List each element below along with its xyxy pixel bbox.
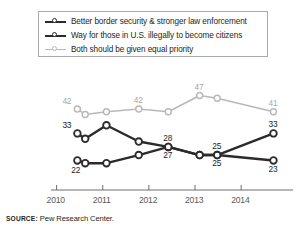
data-point-label: 25 [212,142,221,151]
data-point-marker[interactable] [135,138,142,145]
legend-item-label: Better border security & stronger law en… [71,17,247,26]
data-point-label: 47 [195,83,204,92]
x-axis-line [0,182,299,196]
data-point-marker[interactable] [135,152,142,159]
legend-open-circle-icon [52,18,57,23]
x-axis-tick-label: 2012 [139,196,157,205]
data-point-marker[interactable] [82,111,88,117]
data-point-label: 33 [62,121,71,130]
legend-open-circle-icon [52,32,57,37]
legend-open-circle-icon [52,46,57,51]
data-point-marker[interactable] [197,93,203,99]
x-axis-tick-label: 2011 [93,196,111,205]
data-point-marker[interactable] [270,109,276,115]
data-point-label: 41 [269,99,278,108]
series-line [77,125,273,155]
legend-marker-icon [45,30,66,41]
x-axis-tick-label: 2013 [185,196,203,205]
legend-item-label: Way for those in U.S. illegally to becom… [71,31,242,40]
data-point-marker[interactable] [103,160,110,167]
data-point-label: 33 [269,120,278,129]
data-point-label: 27 [163,151,172,160]
data-point-marker[interactable] [270,157,277,164]
data-point-marker[interactable] [196,152,203,159]
data-point-marker[interactable] [214,95,220,101]
data-point-marker[interactable] [82,160,89,167]
data-point-label: 42 [134,96,143,105]
source-keyword: SOURCE: [6,215,38,222]
data-point-marker[interactable] [103,122,110,129]
line-chart-svg [0,58,299,186]
x-axis: 20102011201220132014 [0,182,299,208]
chart-screenshot: Better border security & stronger law en… [0,0,299,232]
data-point-marker[interactable] [270,130,277,137]
x-axis-tick-label: 2014 [231,196,249,205]
source-text: Pew Research Center. [40,214,114,223]
data-point-label: 42 [62,97,71,106]
data-point-marker[interactable] [165,109,171,115]
legend-item-label: Both should be given equal priority [71,45,193,54]
data-point-marker[interactable] [74,130,81,137]
data-point-label: 22 [71,166,80,175]
legend-item-equal-priority[interactable]: Both should be given equal priority [45,43,267,56]
chart-plot-area: 332825332227252342424741 [0,58,299,186]
legend-marker-icon [45,44,66,55]
data-point-marker[interactable] [136,106,142,112]
data-point-marker[interactable] [74,157,81,164]
data-point-marker[interactable] [103,109,109,115]
data-point-marker[interactable] [74,106,80,112]
data-point-marker[interactable] [82,136,89,143]
data-point-label: 25 [212,159,221,168]
legend-item-path-to-citizenship[interactable]: Way for those in U.S. illegally to becom… [45,29,267,42]
source-note: SOURCE: Pew Research Center. [6,214,114,223]
legend-item-border-security[interactable]: Better border security & stronger law en… [45,15,267,28]
x-axis-tick-label: 2010 [47,196,65,205]
data-point-label: 28 [163,134,172,143]
chart-legend: Better border security & stronger law en… [38,11,268,57]
data-point-label: 23 [269,165,278,174]
legend-marker-icon [45,16,66,27]
